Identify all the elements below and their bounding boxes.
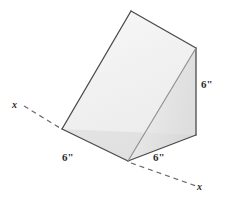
dimension-label-bottom-left: 6": [62, 152, 74, 163]
prism-drawing: [0, 0, 225, 211]
axis-dash-left: [24, 106, 60, 128]
dimension-label-bottom-right: 6": [153, 152, 165, 163]
axis-label-right: x: [197, 182, 202, 192]
dimension-label-right: 6": [201, 79, 213, 90]
axis-dash-right: [131, 163, 196, 186]
axis-label-left: x: [12, 100, 17, 110]
geometric-figure: 6" 6" 6" x x: [0, 0, 225, 211]
